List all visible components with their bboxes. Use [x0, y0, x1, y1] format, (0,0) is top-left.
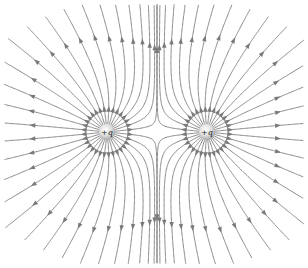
arrowhead-icon — [275, 149, 282, 155]
field-lines — [4, 4, 304, 264]
arrowhead-icon — [180, 127, 186, 132]
arrowhead-icon — [157, 44, 161, 50]
arrowhead-icon — [231, 36, 238, 43]
field-line — [209, 134, 304, 224]
arrowhead-icon — [273, 179, 280, 186]
field-line — [5, 132, 104, 141]
arrowhead-icon — [203, 152, 208, 158]
arrowhead-icon — [140, 38, 145, 44]
field-line — [210, 132, 303, 140]
arrowhead-icon — [162, 220, 167, 226]
arrowhead-icon — [28, 108, 35, 114]
field-line — [209, 134, 303, 198]
arrowhead-icon — [28, 93, 35, 99]
arrowhead-icon — [180, 132, 186, 137]
arrowhead-icon — [275, 123, 281, 128]
field-line — [210, 87, 304, 131]
arrowhead-icon — [147, 220, 152, 226]
field-line — [209, 66, 303, 130]
field-line — [210, 124, 303, 132]
arrowhead-icon — [28, 165, 35, 171]
arrowhead-icon — [77, 36, 84, 43]
arrowhead-icon — [217, 227, 223, 234]
arrowhead-icon — [203, 226, 209, 233]
arrowhead-icon — [273, 79, 280, 86]
arrowhead-icon — [130, 224, 135, 230]
arrowhead-icon — [169, 38, 174, 44]
field-line — [209, 40, 304, 130]
arrowhead-icon — [140, 222, 145, 228]
arrowhead-icon — [28, 150, 35, 156]
field-line — [189, 135, 206, 264]
arrowhead-icon — [162, 42, 167, 48]
field-line — [5, 123, 104, 132]
charge-label-right: +q — [201, 128, 213, 137]
arrowhead-icon — [81, 127, 87, 132]
arrowhead-icon — [106, 35, 112, 42]
charge-label-left: +q — [101, 128, 113, 137]
arrowhead-icon — [76, 223, 83, 230]
arrowhead-icon — [127, 132, 133, 137]
arrowhead-icon — [245, 42, 252, 49]
arrowhead-icon — [227, 132, 233, 137]
arrowhead-icon — [147, 42, 152, 48]
field-line — [108, 135, 125, 264]
arrowhead-icon — [152, 217, 156, 223]
arrowhead-icon — [274, 95, 281, 101]
arrowhead-icon — [202, 35, 208, 42]
arrowhead-icon — [203, 106, 208, 112]
arrowhead-icon — [30, 181, 37, 188]
arrowhead-icon — [275, 109, 282, 115]
arrowhead-icon — [275, 136, 281, 141]
field-line — [8, 39, 105, 130]
arrowhead-icon — [81, 132, 87, 137]
arrowhead-icon — [179, 224, 184, 230]
arrowhead-icon — [246, 217, 253, 224]
arrowhead-icon — [274, 163, 281, 169]
charge-left: +q — [99, 124, 115, 140]
electric-field-diagram: +q +q — [0, 0, 308, 268]
arrowhead-icon — [169, 222, 174, 228]
arrowhead-icon — [105, 226, 111, 233]
field-line — [25, 135, 106, 240]
field-line — [210, 133, 304, 177]
arrowhead-icon — [106, 106, 111, 112]
arrowhead-icon — [227, 127, 233, 132]
arrowhead-icon — [106, 152, 111, 158]
arrowhead-icon — [232, 223, 239, 230]
arrowhead-icon — [178, 38, 183, 44]
arrowhead-icon — [61, 217, 68, 224]
arrowhead-icon — [131, 38, 136, 44]
arrowhead-icon — [92, 34, 98, 41]
field-line — [6, 134, 106, 227]
arrowhead-icon — [127, 127, 133, 132]
charge-right: +q — [199, 124, 215, 140]
arrowhead-icon — [30, 76, 37, 83]
arrowhead-icon — [90, 227, 96, 234]
arrowhead-icon — [29, 123, 35, 128]
arrowhead-icon — [216, 34, 222, 41]
arrowhead-icon — [62, 42, 69, 49]
arrowhead-icon — [29, 136, 35, 141]
